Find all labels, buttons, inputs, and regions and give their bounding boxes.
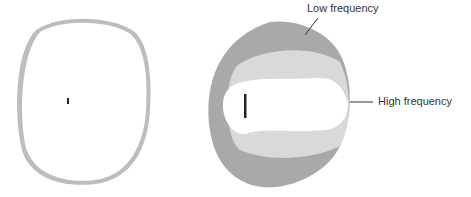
high-frequency-region — [223, 78, 348, 134]
low-frequency-label: Low frequency — [307, 2, 379, 14]
left-inner-region — [22, 23, 147, 181]
right-source-mark — [244, 94, 247, 118]
left-source-mark — [67, 98, 69, 104]
high-frequency-label: High frequency — [378, 95, 452, 107]
